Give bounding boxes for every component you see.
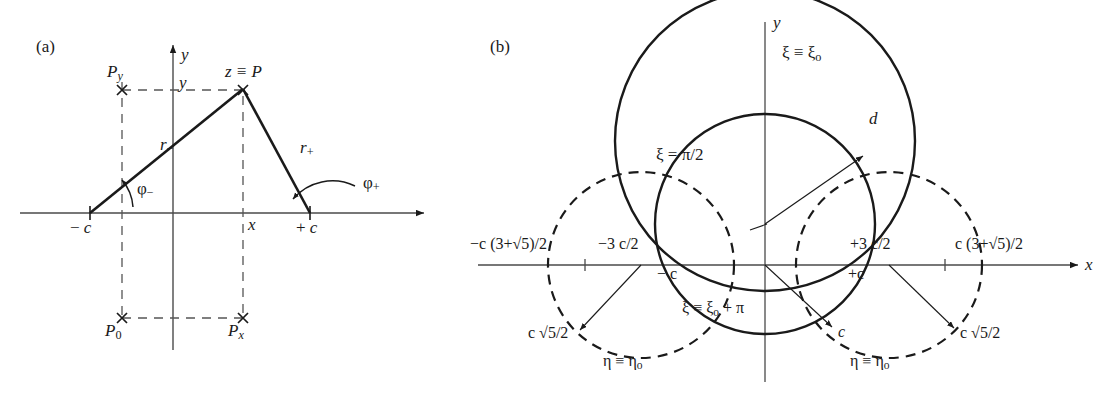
panel-a: (a) y y Py z ≡ P P0 Px − c + c x r− r+ φ… <box>0 0 460 406</box>
curve-label-xi-zero-main: ξ ≡ ξ <box>782 43 815 62</box>
point-label-Py-sub: y <box>117 69 122 83</box>
panel-b-y-axis-label: y <box>773 14 781 31</box>
point-markers <box>117 85 248 323</box>
panel-a-tag: (a) <box>36 38 55 55</box>
point-label-Px-main: P <box>228 321 238 340</box>
panel-b-x-axis-label: x <box>1085 256 1093 273</box>
panel-a-y-coordinate-label: y <box>179 74 187 91</box>
curve-label-xi-zero-sub: o <box>815 50 821 64</box>
tick-label-plus-c-text: +c <box>848 265 864 282</box>
panel-b-tag: (b) <box>490 38 510 55</box>
tick-label-neg-3c-over-2-text: −3 c/2 <box>598 235 639 252</box>
segment-label-r-minus-sub: − <box>167 142 174 156</box>
angle-label-phi-minus-sub: − <box>147 186 154 200</box>
focus-label-plus-c: + c <box>296 219 317 236</box>
callout-label-center-c: c <box>838 324 845 340</box>
tick-label-plus-3c-over-2-text: +3 c/2 <box>850 235 891 252</box>
tick-label-neg-c: − c <box>657 266 677 282</box>
callout-line-right-sqrt5 <box>889 265 954 328</box>
callout-label-left-sqrt5: c √5/2 <box>528 325 568 341</box>
tick-label-neg-c-3plussqrt5-over-2-text: −c (3+√5)/2 <box>470 235 547 252</box>
curve-label-eta-zero-right-main: η ≡ η <box>850 352 884 369</box>
segment-label-r-minus: r− <box>160 136 174 156</box>
tick-label-neg-c-text: − c <box>657 265 677 282</box>
point-label-Px: Px <box>228 322 244 342</box>
curve-label-xi-zero-plus-pi: ξ ≡ ξo + π <box>682 300 744 319</box>
callout-line-left-sqrt5 <box>580 265 641 330</box>
segment-label-r-plus-sub: + <box>307 145 314 159</box>
curve-label-eta-zero-left: η ≡ ηo <box>603 353 643 372</box>
curve-label-xi-zero: ξ ≡ ξo <box>782 44 821 64</box>
angle-label-phi-plus: φ+ <box>363 174 380 194</box>
tick-label-neg-c-3plussqrt5-over-2: −c (3+√5)/2 <box>470 236 547 252</box>
tick-label-c-3plussqrt5-over-2-text: c (3+√5)/2 <box>955 235 1023 252</box>
focus-label-plus-c-sign: + <box>296 218 306 237</box>
angle-label-phi-plus-main: φ <box>363 173 373 192</box>
segment-label-r-plus-main: r <box>300 138 307 157</box>
point-label-P: z ≡ P <box>225 63 262 80</box>
tick-label-neg-3c-over-2: −3 c/2 <box>598 236 639 252</box>
curve-label-eta-zero-left-sub: o <box>637 359 643 371</box>
callout-label-right-sqrt5: c √5/2 <box>960 325 1000 341</box>
curve-label-eta-zero-right: η ≡ ηo <box>850 353 890 372</box>
label-xi-equals-pi-over-2: ξ = π/2 <box>656 146 703 163</box>
focus-label-plus-c-var: c <box>310 218 318 237</box>
segment-label-r-minus-main: r <box>160 135 167 154</box>
curve-label-eta-zero-right-sub: o <box>884 359 890 371</box>
point-label-P0-sub: 0 <box>115 328 121 342</box>
curve-label-xi-zero-plus-pi-tail: + π <box>719 299 744 316</box>
tick-label-c-3plussqrt5-over-2: c (3+√5)/2 <box>955 236 1023 252</box>
panel-a-x-coordinate-label: x <box>248 216 256 233</box>
point-label-P0: P0 <box>105 322 122 342</box>
panel-b: (b) y x ξ ≡ ξo d ξ = π/2 −c (3+√5)/2 −3 … <box>460 0 1117 406</box>
point-label-Px-sub: x <box>238 328 243 342</box>
point-label-Py: Py <box>107 63 123 83</box>
curve-label-eta-zero-left-main: η ≡ η <box>603 352 637 369</box>
angle-label-phi-minus-main: φ <box>137 179 147 198</box>
tick-label-plus-3c-over-2: +3 c/2 <box>850 236 891 252</box>
panel-a-graphics <box>0 0 460 406</box>
angle-label-phi-minus: φ− <box>137 180 154 200</box>
callout-label-left-sqrt5-text: c √5/2 <box>528 324 568 341</box>
callout-line-center-c <box>765 265 832 327</box>
tick-label-plus-c: +c <box>848 266 864 282</box>
panel-a-construction-lines <box>122 82 243 318</box>
callout-line-d <box>765 156 863 224</box>
angle-label-phi-plus-sub: + <box>373 180 380 194</box>
focus-label-minus-c-sign: − <box>70 218 80 237</box>
curve-label-xi-zero-plus-pi-main: ξ ≡ ξ <box>682 299 713 316</box>
point-label-Py-main: P <box>107 62 117 81</box>
focus-label-minus-c-var: c <box>84 218 92 237</box>
point-label-P0-main: P <box>105 321 115 340</box>
panel-a-y-axis-label: y <box>181 46 189 63</box>
callout-label-right-sqrt5-text: c √5/2 <box>960 324 1000 341</box>
focus-label-minus-c: − c <box>70 219 91 236</box>
callout-label-d: d <box>869 110 878 127</box>
segment-label-r-plus: r+ <box>300 139 314 159</box>
